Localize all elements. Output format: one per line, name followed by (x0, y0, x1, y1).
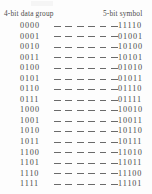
leader-dash (54, 173, 61, 174)
leader-dash (111, 100, 118, 101)
leader-dash (88, 152, 95, 153)
cell-data-group: 0101 (20, 74, 40, 85)
cell-symbol: 01001 (118, 32, 143, 43)
leader-dash (77, 173, 84, 174)
leader-dots (54, 74, 118, 85)
leader-dash (88, 121, 95, 122)
cell-symbol: 10100 (118, 42, 143, 53)
scan-artifact (31, 1, 53, 6)
leader-dash (77, 26, 84, 27)
table-row: 110011010 (0, 148, 152, 159)
leader-dash (111, 79, 118, 80)
leader-dash (100, 100, 107, 101)
cell-data-group: 0110 (20, 84, 40, 95)
leader-dash (77, 121, 84, 122)
cell-data-group: 0000 (20, 21, 40, 32)
leader-dash (54, 47, 61, 48)
leader-dash (88, 142, 95, 143)
column-header-symbol: 5-bit symbol (103, 9, 142, 19)
leader-dash (77, 100, 84, 101)
leader-dash (100, 57, 107, 58)
cell-symbol: 10111 (118, 137, 142, 148)
leader-dash (54, 110, 61, 111)
leader-dash (65, 163, 72, 164)
leader-dash (65, 110, 72, 111)
leader-dash (54, 68, 61, 69)
leader-dash (54, 89, 61, 90)
leader-dash (65, 79, 72, 80)
leader-dash (65, 152, 72, 153)
leader-dash (77, 79, 84, 80)
leader-dots (54, 105, 118, 116)
leader-dots (54, 32, 118, 43)
leader-dash (111, 68, 118, 69)
leader-dots (54, 84, 118, 95)
leader-dash (54, 79, 61, 80)
leader-dash (100, 163, 107, 164)
table-row: 001110101 (0, 53, 152, 64)
cell-data-group: 1001 (20, 116, 40, 127)
leader-dash (111, 89, 118, 90)
leader-dash (77, 184, 84, 185)
leader-dots (54, 116, 118, 127)
leader-dash (54, 100, 61, 101)
leader-dash (77, 152, 84, 153)
table-row: 011101111 (0, 95, 152, 106)
leader-dash (111, 26, 118, 27)
leader-dash (65, 26, 72, 27)
cell-data-group: 1101 (20, 158, 40, 169)
leader-dash (100, 121, 107, 122)
cell-symbol: 10110 (118, 126, 143, 137)
leader-dash (77, 47, 84, 48)
leader-dash (88, 89, 95, 90)
leader-dash (88, 184, 95, 185)
leader-dash (88, 163, 95, 164)
leader-dash (111, 36, 118, 37)
leader-dash (88, 110, 95, 111)
leader-dash (54, 57, 61, 58)
leader-dash (77, 57, 84, 58)
leader-dash (65, 121, 72, 122)
leader-dots (54, 169, 118, 180)
leader-dots (54, 53, 118, 64)
leader-dash (111, 163, 118, 164)
cell-data-group: 0010 (20, 42, 40, 53)
table-row: 100010010 (0, 105, 152, 116)
cell-data-group: 1110 (20, 169, 39, 180)
leader-dash (65, 142, 72, 143)
cell-symbol: 01010 (118, 63, 143, 74)
leader-dash (111, 110, 118, 111)
leader-dash (77, 89, 84, 90)
leader-dash (77, 68, 84, 69)
leader-dash (54, 163, 61, 164)
leader-dash (77, 110, 84, 111)
leader-dash (111, 184, 118, 185)
leader-dash (100, 89, 107, 90)
column-header-data-group: 4-bit data group (4, 9, 54, 19)
table-row: 010101011 (0, 74, 152, 85)
leader-dash (65, 100, 72, 101)
leader-dots (54, 21, 118, 32)
cell-symbol: 01111 (118, 95, 142, 106)
leader-dash (65, 68, 72, 69)
cell-symbol: 11011 (118, 158, 142, 169)
leader-dash (65, 57, 72, 58)
leader-dash (100, 26, 107, 27)
table-row: 111011100 (0, 169, 152, 180)
cell-symbol: 10101 (118, 53, 143, 64)
cell-data-group: 1011 (20, 137, 40, 148)
leader-dash (111, 142, 118, 143)
cell-data-group: 0100 (20, 63, 40, 74)
leader-dash (100, 173, 107, 174)
cell-data-group: 0111 (20, 95, 39, 106)
leader-dash (100, 142, 107, 143)
table-header-row: 4-bit data group 5-bit symbol (0, 9, 152, 20)
leader-dash (54, 131, 61, 132)
leader-dash (88, 57, 95, 58)
leader-dots (54, 42, 118, 53)
leader-dash (88, 173, 95, 174)
leader-dash (111, 173, 118, 174)
cell-data-group: 1000 (20, 105, 40, 116)
leader-dots (54, 126, 118, 137)
leader-dots (54, 179, 118, 190)
